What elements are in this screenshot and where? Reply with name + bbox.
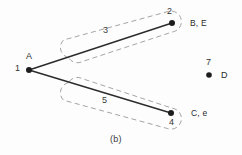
vertex-4-dot [168, 110, 174, 116]
vertex-2-dot [169, 20, 175, 26]
vertex-7-dot [206, 72, 212, 78]
vertex-2-name: B, E [190, 19, 207, 28]
vertex-4-name: C, e [191, 109, 207, 118]
figure-container: 1 A 2 B, E 4 C, e 7 D 3 5 (b) [0, 0, 242, 155]
figure-caption: (b) [110, 135, 122, 144]
vertex-1-dot [26, 67, 32, 73]
cluster-capsule-upper [60, 11, 181, 63]
vertex-1-name: A [26, 52, 32, 61]
vertex-4-number: 4 [169, 118, 174, 127]
vertex-7-number: 7 [206, 58, 211, 67]
vertex-2-number: 2 [167, 7, 172, 16]
edge-5-number: 5 [102, 96, 107, 105]
vertex-7-name: D [221, 71, 228, 80]
edge-5-line [29, 70, 171, 113]
vertex-1-number: 1 [15, 64, 20, 73]
edge-3-number: 3 [103, 26, 108, 35]
